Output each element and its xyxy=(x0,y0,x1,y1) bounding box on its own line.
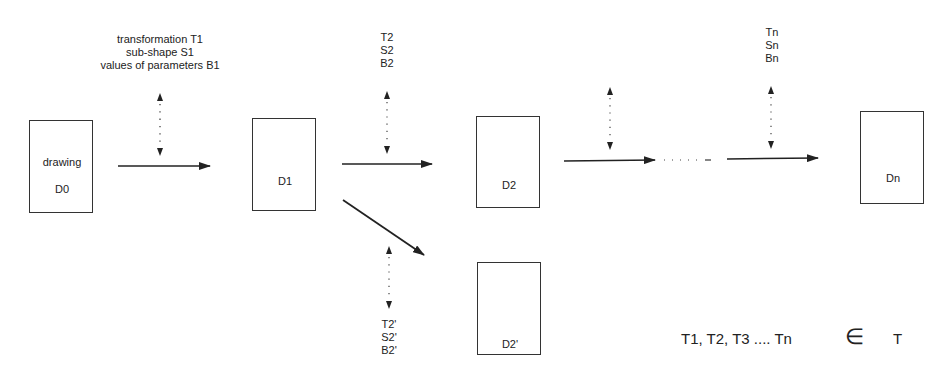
arrow-prev-dn xyxy=(727,158,818,159)
node-d0-label: D0 xyxy=(34,183,90,195)
annotation-step2p-parameters: B2' xyxy=(369,344,409,357)
annotation-step1-parameters: values of parameters B1 xyxy=(80,59,240,72)
node-d2: D2 xyxy=(476,116,540,208)
annotation-step1: transformation T1 sub-shape S1 values of… xyxy=(80,33,240,72)
node-d2-prime: D2' xyxy=(477,262,541,355)
node-d2-prime-label: D2' xyxy=(482,338,538,350)
annotation-step2: T2 S2 B2 xyxy=(367,31,407,70)
node-d0-caption: drawing xyxy=(34,156,90,168)
node-d0: drawing D0 xyxy=(29,120,93,213)
annotation-step1-transformation: transformation T1 xyxy=(80,33,240,46)
node-d2-label: D2 xyxy=(481,179,537,191)
formula-rhs: T xyxy=(893,330,902,347)
annotation-step2-parameters: B2 xyxy=(367,57,407,70)
formula-lhs: T1, T2, T3 .... Tn xyxy=(681,330,792,347)
annotation-stepn: Tn Sn Bn xyxy=(752,26,792,65)
dotted-double-arrow-stepn xyxy=(768,86,774,149)
annotation-step2p-transformation: T2' xyxy=(369,318,409,331)
annotation-stepn-subshape: Sn xyxy=(752,39,792,52)
node-d1: D1 xyxy=(252,118,316,211)
annotation-step2-subshape: S2 xyxy=(367,44,407,57)
element-of-symbol: ∈ xyxy=(845,324,864,350)
dotted-double-arrow-step3 xyxy=(607,87,613,150)
dotted-double-arrow-step2 xyxy=(384,91,390,154)
dotted-double-arrow-step1 xyxy=(157,93,163,156)
node-dn: Dn xyxy=(860,111,924,204)
node-dn-label: Dn xyxy=(865,172,921,184)
annotation-step2-prime: T2' S2' B2' xyxy=(369,318,409,357)
annotation-step2p-subshape: S2' xyxy=(369,331,409,344)
annotation-stepn-transformation: Tn xyxy=(752,26,792,39)
annotation-stepn-parameters: Bn xyxy=(752,52,792,65)
annotation-step2-transformation: T2 xyxy=(367,31,407,44)
node-d1-label: D1 xyxy=(257,175,313,187)
arrow-d1-d2prime xyxy=(343,200,424,255)
annotation-step1-subshape: sub-shape S1 xyxy=(80,46,240,59)
arrow-d2-next xyxy=(564,160,655,161)
dotted-double-arrow-step2prime xyxy=(386,246,392,309)
